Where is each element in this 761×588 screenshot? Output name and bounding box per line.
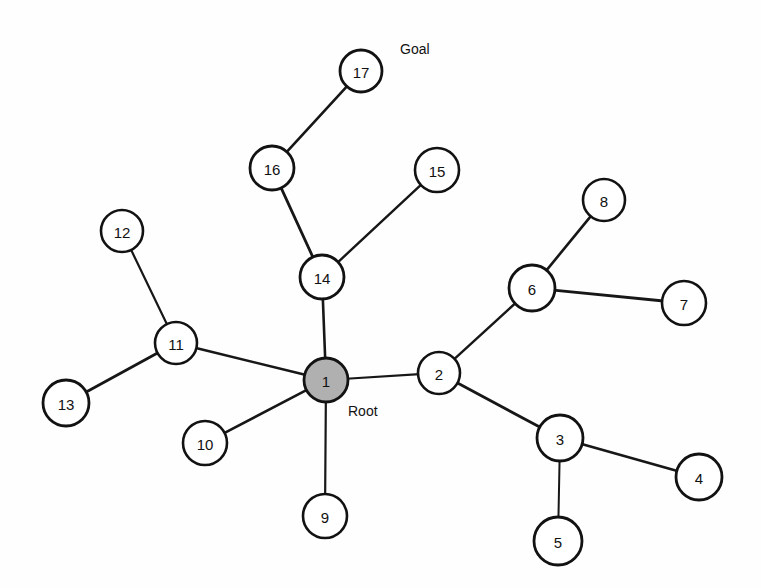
- graph-edge: [558, 459, 559, 518]
- graph-node-11[interactable]: 11: [155, 322, 197, 364]
- node-label-12: 12: [114, 224, 131, 241]
- graph-node-5[interactable]: 5: [534, 517, 582, 565]
- graph-node-7[interactable]: 7: [662, 281, 706, 325]
- node-label-17: 17: [353, 64, 370, 81]
- graph-edge: [85, 352, 159, 392]
- node-label-7: 7: [680, 296, 688, 313]
- node-label-2: 2: [435, 366, 443, 383]
- graph-edge: [223, 389, 308, 433]
- node-label-8: 8: [600, 193, 608, 210]
- graph-edge: [323, 297, 325, 359]
- graph-node-17[interactable]: 17: [340, 50, 382, 92]
- edges-layer: [85, 85, 678, 518]
- graph-edge: [281, 187, 314, 259]
- graph-edge: [286, 85, 348, 153]
- graph-svg: 1234567891011121314151617 GoalRoot: [0, 0, 761, 588]
- graph-edge: [325, 400, 326, 495]
- graph-node-12[interactable]: 12: [101, 210, 143, 252]
- graph-node-9[interactable]: 9: [303, 494, 347, 538]
- graph-edge: [581, 444, 679, 471]
- node-label-1: 1: [322, 373, 330, 390]
- graph-node-3[interactable]: 3: [537, 415, 583, 461]
- graph-node-1[interactable]: 1: [304, 358, 348, 402]
- graph-edge: [456, 382, 541, 428]
- node-label-3: 3: [556, 431, 564, 448]
- node-label-6: 6: [528, 281, 536, 298]
- graph-node-4[interactable]: 4: [676, 454, 722, 500]
- graph-edge: [195, 348, 306, 375]
- graph-edge: [546, 215, 592, 271]
- graph-edge: [553, 290, 663, 301]
- graph-edge: [453, 303, 516, 360]
- graph-edge: [337, 184, 422, 263]
- node-label-9: 9: [321, 509, 329, 526]
- goal-annotation: Goal: [400, 41, 430, 57]
- graph-node-14[interactable]: 14: [300, 255, 344, 299]
- graph-node-10[interactable]: 10: [183, 421, 227, 465]
- node-label-14: 14: [314, 270, 331, 287]
- annotations-layer: GoalRoot: [348, 41, 430, 419]
- node-label-4: 4: [695, 470, 703, 487]
- node-label-11: 11: [168, 336, 184, 353]
- graph-node-6[interactable]: 6: [509, 265, 555, 311]
- node-label-15: 15: [429, 163, 446, 180]
- graph-node-13[interactable]: 13: [43, 380, 89, 426]
- diagram-canvas: 1234567891011121314151617 GoalRoot: [0, 0, 761, 588]
- node-label-16: 16: [264, 161, 281, 178]
- graph-node-15[interactable]: 15: [415, 148, 459, 192]
- nodes-layer: 1234567891011121314151617: [43, 50, 722, 565]
- graph-node-2[interactable]: 2: [418, 352, 460, 394]
- graph-edge: [346, 374, 419, 379]
- graph-edge: [130, 249, 167, 326]
- node-label-13: 13: [58, 396, 75, 413]
- graph-node-16[interactable]: 16: [250, 146, 294, 190]
- graph-node-8[interactable]: 8: [583, 179, 625, 221]
- root-annotation: Root: [348, 403, 378, 419]
- node-label-5: 5: [554, 534, 562, 551]
- node-label-10: 10: [197, 436, 214, 453]
